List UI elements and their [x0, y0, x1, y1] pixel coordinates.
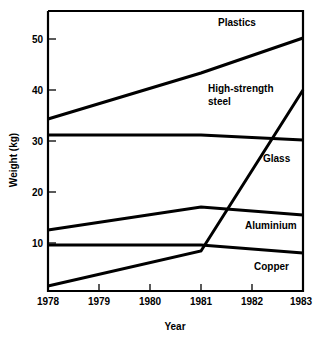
y-tick-label-10: 10 [32, 238, 44, 249]
chart-canvas: 50 40 30 20 10 1978 1979 1980 1981 1982 … [0, 0, 317, 338]
x-tick-label-1983: 1983 [290, 296, 313, 307]
series-line-high-strength-steel [48, 90, 303, 286]
series-line-plastics [48, 38, 303, 119]
y-axis-title: Weight (kg) [8, 133, 19, 187]
x-tick-label-1979: 1979 [88, 296, 111, 307]
series-label-plastics: Plastics [218, 17, 256, 28]
y-axis-ticks [48, 39, 56, 243]
y-tick-label-40: 40 [32, 85, 44, 96]
y-tick-label-50: 50 [32, 34, 44, 45]
x-tick-label-1980: 1980 [139, 296, 162, 307]
series-label-glass: Glass [263, 153, 291, 164]
series-line-copper [48, 245, 303, 253]
y-tick-label-20: 20 [32, 187, 44, 198]
x-axis-tick-labels: 1978 1979 1980 1981 1982 1983 [37, 296, 313, 307]
line-chart-figure: 50 40 30 20 10 1978 1979 1980 1981 1982 … [0, 0, 317, 338]
series-label-high-strength-steel-line2: steel [208, 96, 231, 107]
series-label-aluminium: Aluminium [245, 220, 297, 231]
x-tick-label-1981: 1981 [190, 296, 213, 307]
x-axis-title: Year [164, 321, 185, 332]
x-tick-label-1982: 1982 [241, 296, 264, 307]
series-label-high-strength-steel-line1: High-strength [208, 83, 274, 94]
y-tick-label-30: 30 [32, 136, 44, 147]
series-line-glass [48, 135, 303, 140]
series-label-copper: Copper [254, 261, 289, 272]
y-axis-tick-labels: 50 40 30 20 10 [32, 34, 44, 249]
x-tick-label-1978: 1978 [37, 296, 60, 307]
